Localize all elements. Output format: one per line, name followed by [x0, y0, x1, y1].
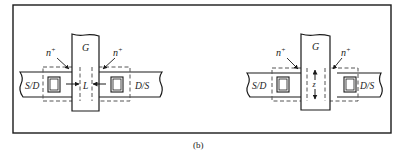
- right-gate-label: G: [312, 41, 319, 52]
- left-device: G S/D D/S L n+ n+: [20, 34, 162, 111]
- left-implant-label-source: n+: [46, 46, 56, 58]
- left-source-label: S/D: [25, 81, 39, 91]
- right-implant-label-source: n+: [276, 46, 286, 58]
- left-drain-label: D/S: [134, 81, 150, 91]
- left-drain-strip: [99, 72, 162, 97]
- right-source-label: S/D: [252, 81, 266, 91]
- left-dimension-label: L: [82, 81, 88, 91]
- figure-caption: (b): [193, 140, 204, 150]
- right-drain-label: D/S: [359, 81, 375, 91]
- right-implant-label-drain: n+: [341, 46, 351, 58]
- figure-frame: [13, 5, 391, 133]
- right-device: z G S/D D/S n+ n+: [247, 34, 382, 110]
- mosfet-layout-diagram: G S/D D/S L n+ n+ z G S/D D/S: [0, 0, 400, 160]
- left-gate-label: G: [82, 42, 89, 53]
- left-implant-label-drain: n+: [113, 46, 123, 58]
